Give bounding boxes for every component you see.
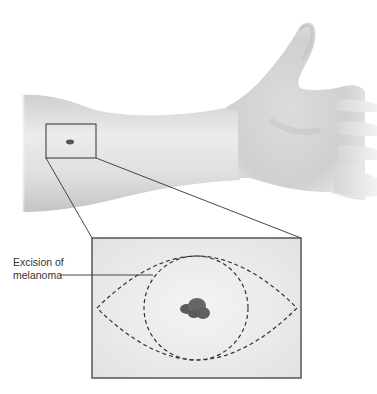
annotation-label: Excision of melanoma <box>13 256 64 282</box>
melanoma-excision-illustration <box>0 0 377 394</box>
lesion-small <box>66 140 74 145</box>
finger <box>334 169 377 196</box>
finger <box>338 121 377 136</box>
annotation-line1: Excision of <box>13 256 64 269</box>
finger <box>335 99 377 112</box>
annotation-line2: melanoma <box>13 269 64 282</box>
finger <box>338 145 377 160</box>
